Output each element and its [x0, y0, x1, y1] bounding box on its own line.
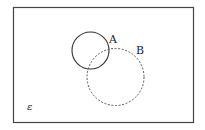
- set-b-label: B: [136, 44, 144, 57]
- universe-rectangle: [14, 8, 194, 123]
- set-a-circle: [72, 32, 109, 69]
- venn-diagram: A B ε: [0, 0, 205, 130]
- set-b-circle: [87, 49, 144, 106]
- set-a-label: A: [108, 33, 118, 46]
- universe-label: ε: [27, 101, 32, 112]
